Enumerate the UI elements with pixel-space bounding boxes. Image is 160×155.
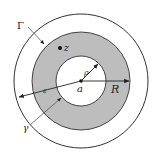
label-R: R	[110, 83, 119, 96]
label-Gamma: Γ	[17, 20, 24, 31]
label-a: a	[77, 83, 83, 94]
Gamma-pointer-arrow	[28, 27, 44, 44]
label-rho: ρ	[83, 68, 89, 77]
label-epsilon: ε	[43, 87, 47, 95]
annulus-diagram: z a ρ R ε Γ γ	[0, 0, 160, 155]
point-z	[58, 46, 62, 50]
label-gamma: γ	[23, 123, 29, 133]
label-z: z	[63, 43, 69, 53]
